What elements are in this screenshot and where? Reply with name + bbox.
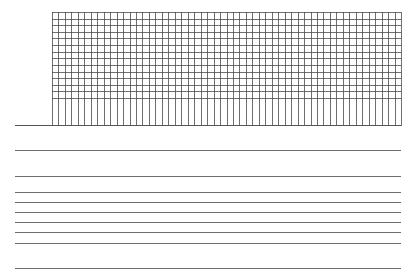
writing-line <box>15 232 401 233</box>
grid-baseline <box>15 125 401 126</box>
writing-line <box>15 212 401 213</box>
writing-line <box>15 243 401 244</box>
writing-line <box>15 192 401 193</box>
writing-line <box>15 202 401 203</box>
writing-line <box>15 268 401 269</box>
grid-svg <box>52 12 402 127</box>
writing-line <box>15 222 401 223</box>
writing-line <box>15 150 401 151</box>
writing-line <box>15 176 401 177</box>
